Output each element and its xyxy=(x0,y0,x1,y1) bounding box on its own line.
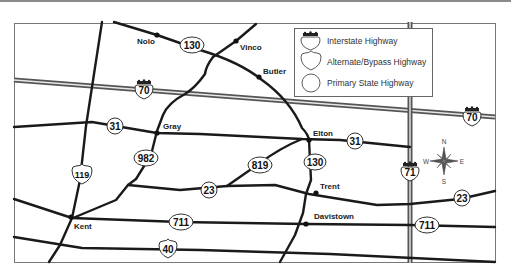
svg-text:31: 31 xyxy=(109,121,121,132)
shield-23-west[interactable]: 23 xyxy=(201,182,217,198)
compass-east: E xyxy=(460,158,465,165)
town-label-nolo: Nolo xyxy=(137,37,155,46)
svg-text:23: 23 xyxy=(203,185,215,196)
shield-982[interactable]: 982 xyxy=(134,150,158,166)
legend-label-bypass: Alternate/Bypass Highway xyxy=(327,57,427,67)
legend-label-state: Primary State Highway xyxy=(327,78,414,88)
shield-711-east[interactable]: 711 xyxy=(415,217,439,233)
town-label-davistown: Davistown xyxy=(314,212,354,221)
shield-31-east[interactable]: 31 xyxy=(347,133,363,149)
town-dot-kent[interactable] xyxy=(68,214,73,219)
town-label-elton: Elton xyxy=(313,129,333,138)
svg-text:982: 982 xyxy=(138,153,155,164)
legend: Interstate Highway Alternate/Bypass High… xyxy=(295,29,433,97)
svg-text:70: 70 xyxy=(138,85,150,96)
shield-31-west[interactable]: 31 xyxy=(107,118,123,134)
legend-label-interstate: Interstate Highway xyxy=(327,36,398,46)
legend-state-icon xyxy=(302,74,320,92)
compass-south: S xyxy=(442,178,447,185)
town-label-trent: Trent xyxy=(320,182,340,191)
svg-text:71: 71 xyxy=(404,167,416,178)
town-label-vinco: Vinco xyxy=(240,43,262,52)
svg-text:130: 130 xyxy=(184,40,201,51)
shield-23-east[interactable]: 23 xyxy=(454,190,470,206)
town-dot-nolo[interactable] xyxy=(154,32,159,37)
svg-text:40: 40 xyxy=(162,244,174,255)
svg-text:70: 70 xyxy=(466,112,478,123)
compass-north: N xyxy=(442,138,447,145)
town-dot-davistown[interactable] xyxy=(303,221,308,226)
town-dot-elton[interactable] xyxy=(306,137,311,142)
town-dot-gray[interactable] xyxy=(154,130,159,135)
compass-west: W xyxy=(423,158,430,165)
town-label-butler: Butler xyxy=(263,67,286,76)
shield-130-south[interactable]: 130 xyxy=(304,154,326,170)
town-dot-trent[interactable] xyxy=(313,190,318,195)
town-dot-butler[interactable] xyxy=(256,74,261,79)
road-map: Nolo Vinco Butler Gray Elton Trent Kent … xyxy=(0,0,511,277)
svg-text:819: 819 xyxy=(252,160,269,171)
town-dot-vinco[interactable] xyxy=(233,38,238,43)
svg-text:711: 711 xyxy=(173,217,190,228)
shield-711-west[interactable]: 711 xyxy=(169,214,193,230)
svg-text:711: 711 xyxy=(419,220,436,231)
town-label-gray: Gray xyxy=(163,122,182,131)
svg-text:23: 23 xyxy=(456,193,468,204)
town-label-kent: Kent xyxy=(74,222,92,231)
svg-text:130: 130 xyxy=(307,157,324,168)
svg-text:31: 31 xyxy=(349,136,361,147)
shield-130-north[interactable]: 130 xyxy=(180,37,204,53)
shield-819[interactable]: 819 xyxy=(248,157,272,173)
svg-text:119: 119 xyxy=(75,170,90,180)
